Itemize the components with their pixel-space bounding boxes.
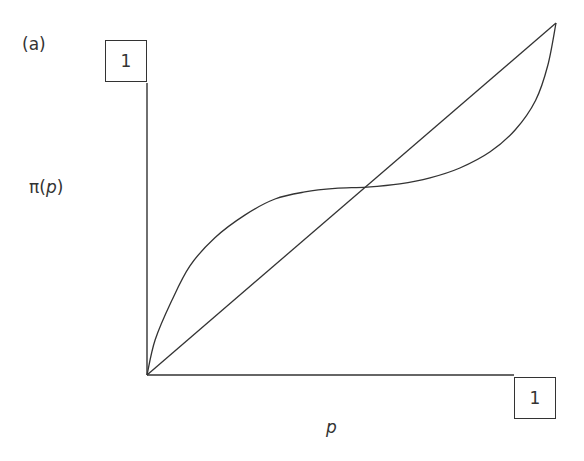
x-tick-box: 1 xyxy=(514,377,556,419)
diagonal-line xyxy=(147,23,556,375)
y-tick-box: 1 xyxy=(105,40,147,82)
y-axis-label: π(p) xyxy=(29,177,63,197)
x-axis-label: p xyxy=(326,417,337,437)
panel-label: (a) xyxy=(22,34,46,54)
plot-area xyxy=(0,0,584,461)
